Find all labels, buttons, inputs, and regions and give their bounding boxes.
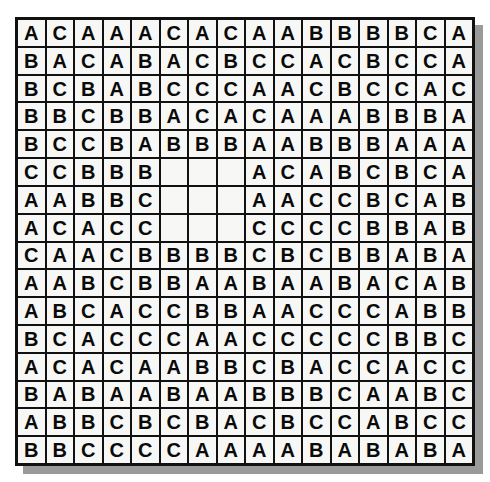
grid-cell: B: [132, 159, 159, 185]
grid-cell: B: [332, 131, 359, 157]
grid-cell: C: [246, 354, 273, 380]
grid-cell: B: [360, 187, 387, 213]
grid-cell: B: [132, 103, 159, 129]
grid-cell: A: [161, 103, 188, 129]
grid-cell: C: [446, 409, 473, 435]
grid-cell: C: [332, 187, 359, 213]
grid-cell: C: [360, 326, 387, 352]
grid-cell: C: [189, 76, 216, 102]
grid-cell: A: [132, 382, 159, 408]
grid-cell: B: [104, 187, 131, 213]
grid-cell: B: [161, 243, 188, 269]
grid-cell: A: [275, 187, 302, 213]
grid-cell: B: [18, 326, 45, 352]
grid-cell: C: [389, 270, 416, 296]
grid-cell: A: [104, 48, 131, 74]
grid-cell: A: [75, 243, 102, 269]
grid-cell: A: [47, 243, 74, 269]
grid-cell: B: [161, 270, 188, 296]
grid-cell-empty: [218, 159, 245, 185]
grid-cell: C: [303, 76, 330, 102]
grid-cell: B: [161, 382, 188, 408]
grid-cell: A: [189, 20, 216, 46]
grid-cell: B: [18, 76, 45, 102]
grid-cell: B: [275, 243, 302, 269]
grid-cell: B: [446, 187, 473, 213]
grid-cell-empty: [161, 187, 188, 213]
grid-cell: B: [360, 215, 387, 241]
grid-cell: B: [132, 409, 159, 435]
grid-cell: C: [389, 48, 416, 74]
grid-cell: A: [218, 437, 245, 463]
grid-cell: C: [161, 409, 188, 435]
grid-cell: C: [303, 409, 330, 435]
letter-grid-stage: ACAAACACAABBBBCABACABACBCCACBCCABCBABCCC…: [0, 0, 490, 482]
grid-cell: C: [246, 215, 273, 241]
grid-cell: B: [218, 298, 245, 324]
grid-cell: B: [75, 270, 102, 296]
grid-cell: A: [389, 437, 416, 463]
grid-cell: C: [161, 437, 188, 463]
grid-cell: C: [75, 131, 102, 157]
grid-cell: C: [161, 298, 188, 324]
grid-cell: A: [132, 354, 159, 380]
grid-cell: B: [332, 76, 359, 102]
grid-cell: A: [218, 326, 245, 352]
grid-cell: B: [218, 131, 245, 157]
grid-cell: B: [275, 354, 302, 380]
grid-cell: B: [389, 215, 416, 241]
grid-cell: C: [75, 103, 102, 129]
grid-cell: C: [75, 437, 102, 463]
grid-cell: A: [75, 354, 102, 380]
grid-cell: A: [47, 48, 74, 74]
grid-cell: A: [303, 270, 330, 296]
grid-cell: C: [275, 48, 302, 74]
grid-cell: B: [47, 298, 74, 324]
grid-cell: A: [246, 437, 273, 463]
grid-cell: B: [417, 103, 444, 129]
grid-cell: A: [218, 409, 245, 435]
grid-cell: B: [47, 103, 74, 129]
grid-cell: B: [389, 103, 416, 129]
grid-cell: C: [104, 326, 131, 352]
grid-cell: B: [303, 131, 330, 157]
grid-cell: B: [389, 20, 416, 46]
grid-cell: B: [417, 382, 444, 408]
grid-cell: A: [275, 131, 302, 157]
grid-cell: B: [275, 409, 302, 435]
grid-cell: B: [189, 298, 216, 324]
grid-cell: C: [417, 20, 444, 46]
grid-cell: C: [360, 298, 387, 324]
grid-cell: A: [389, 243, 416, 269]
grid-cell: B: [104, 131, 131, 157]
grid-cell: A: [417, 76, 444, 102]
grid-cell: B: [161, 131, 188, 157]
grid-cell: A: [417, 215, 444, 241]
grid-cell: A: [417, 187, 444, 213]
grid-cell: B: [18, 437, 45, 463]
grid-cell: A: [75, 215, 102, 241]
grid-cell: C: [47, 131, 74, 157]
grid-cell: A: [303, 159, 330, 185]
grid-cell: B: [303, 20, 330, 46]
grid-cell: C: [303, 215, 330, 241]
grid-cell: C: [189, 103, 216, 129]
grid-cell: C: [161, 326, 188, 352]
grid-cell-empty: [189, 187, 216, 213]
grid-cell: B: [104, 159, 131, 185]
grid-cell: B: [332, 159, 359, 185]
grid-cell: A: [360, 382, 387, 408]
grid-cell: A: [303, 103, 330, 129]
grid-cell: A: [189, 270, 216, 296]
grid-cell: C: [332, 215, 359, 241]
grid-cell: B: [360, 103, 387, 129]
grid-cell: A: [104, 298, 131, 324]
grid-cell: A: [446, 131, 473, 157]
grid-cell: C: [275, 326, 302, 352]
grid-cell: A: [275, 270, 302, 296]
grid-cell: C: [417, 159, 444, 185]
grid-cell-empty: [218, 187, 245, 213]
grid-cell: C: [389, 187, 416, 213]
grid-cell: A: [389, 354, 416, 380]
grid-cell: B: [47, 409, 74, 435]
